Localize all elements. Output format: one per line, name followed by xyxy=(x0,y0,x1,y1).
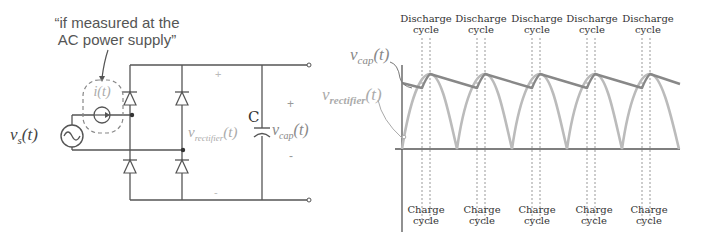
output-terminal-top xyxy=(307,63,311,67)
charge-label: Charge xyxy=(407,204,444,215)
current-source-icon xyxy=(94,107,110,123)
diode-bottom-left-icon xyxy=(123,160,137,173)
discharge-label-sub: cycle xyxy=(413,24,439,35)
vrect-leader-dot xyxy=(402,135,406,139)
rectifier-plus: + xyxy=(215,68,221,80)
charge-label: Charge xyxy=(630,204,667,215)
diode-bridge xyxy=(123,92,189,173)
discharge-label-sub: cycle xyxy=(468,24,494,35)
annotation-line-2: AC power supply” xyxy=(58,31,176,48)
charge-label: Charge xyxy=(518,204,555,215)
discharge-labels: Discharge cycle Discharge cycle Discharg… xyxy=(400,13,674,35)
discharge-label: Discharge xyxy=(455,13,507,24)
diode-bottom-right-icon xyxy=(175,160,189,173)
annotation-line-1: “if measured at the xyxy=(54,14,179,31)
vcap-waveform xyxy=(402,74,680,88)
charge-label-sub: cycle xyxy=(469,215,495,226)
charge-label-sub: cycle xyxy=(413,215,439,226)
rectifier-voltage-label: vrectifier(t) xyxy=(188,124,238,143)
cap-minus: - xyxy=(289,149,293,163)
node-dot-right xyxy=(181,148,185,152)
node-dot-left xyxy=(130,113,134,117)
charge-label-sub: cycle xyxy=(581,215,607,226)
discharge-label-sub: cycle xyxy=(579,24,605,35)
annotation-arrow xyxy=(102,50,108,78)
discharge-label: Discharge xyxy=(511,13,563,24)
current-label: i(t) xyxy=(93,84,110,100)
rectifier-minus: - xyxy=(214,186,218,198)
waveform-graph: vcap(t) vrectifier(t) Discharge cycle Di… xyxy=(322,13,680,232)
charge-labels: Charge cycle Charge cycle Charge cycle C… xyxy=(407,204,667,226)
charge-label: Charge xyxy=(575,204,612,215)
capacitor-label: C xyxy=(248,108,259,126)
rectifier-diagram: “if measured at the AC power supply” xyxy=(0,0,706,242)
capacitor-icon xyxy=(254,128,270,137)
charge-label-sub: cycle xyxy=(636,215,662,226)
cap-voltage-label: vcap(t) xyxy=(272,121,309,141)
discharge-label-sub: cycle xyxy=(635,24,661,35)
cap-plus: + xyxy=(287,97,294,111)
ac-source-icon xyxy=(61,125,83,147)
charge-window-lines xyxy=(422,38,650,226)
output-terminal-bottom xyxy=(307,198,311,202)
discharge-label: Discharge xyxy=(566,13,618,24)
diode-top-right-icon xyxy=(175,92,189,105)
discharge-label: Discharge xyxy=(400,13,452,24)
arrow-head-icon xyxy=(99,76,105,82)
charge-label: Charge xyxy=(463,204,500,215)
diode-top-left-icon xyxy=(123,92,137,105)
charge-label-sub: cycle xyxy=(524,215,550,226)
discharge-label-sub: cycle xyxy=(524,24,550,35)
vcap-graph-label: vcap(t) xyxy=(350,45,390,66)
vrect-graph-label: vrectifier(t) xyxy=(322,85,382,106)
vrect-leader-line xyxy=(378,100,402,138)
discharge-label: Discharge xyxy=(622,13,674,24)
annotation-note: “if measured at the AC power supply” xyxy=(54,14,179,82)
source-voltage-label: vs(t) xyxy=(10,125,38,146)
